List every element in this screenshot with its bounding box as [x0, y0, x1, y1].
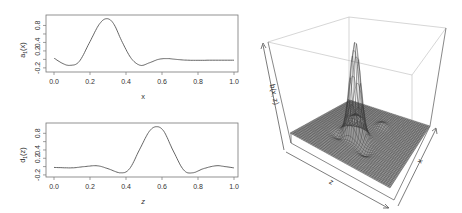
x-axis: 0.00.20.40.60.81.0	[49, 177, 239, 190]
x-direction-label: x	[415, 157, 425, 165]
x-axis-label: z	[140, 197, 145, 206]
z-direction-label: z	[327, 177, 335, 187]
svg-text:0.8: 0.8	[34, 21, 41, 31]
panel-surface: b(x, z) z x	[261, 17, 446, 208]
svg-text:0.8: 0.8	[34, 128, 41, 138]
plot-frame	[46, 123, 238, 177]
svg-text:0.0: 0.0	[49, 78, 59, 85]
y-axis: -0.20.20.40.8	[34, 128, 46, 181]
svg-text:1.0: 1.0	[229, 78, 239, 85]
svg-text:0.6: 0.6	[157, 78, 167, 85]
svg-text:0.6: 0.6	[157, 183, 167, 190]
figure: 0.00.20.40.60.81.0 -0.20.20.40.8 x a1(x)…	[0, 0, 462, 213]
svg-text:-0.2: -0.2	[34, 62, 41, 74]
svg-text:0.2: 0.2	[85, 183, 95, 190]
panel-a1: 0.00.20.40.60.81.0 -0.20.20.40.8 x a1(x)	[18, 15, 239, 101]
curve-d1	[54, 127, 234, 173]
svg-text:0.4: 0.4	[121, 78, 131, 85]
svg-text:0.8: 0.8	[193, 183, 203, 190]
y-axis: -0.20.20.40.8	[34, 21, 46, 74]
svg-text:0.2: 0.2	[85, 78, 95, 85]
svg-text:0.8: 0.8	[193, 78, 203, 85]
surface-wireframe	[290, 43, 430, 189]
panel-d1: 0.00.20.40.60.81.0 -0.20.20.40.8 z d1(z)	[18, 123, 239, 206]
z-axis-label: b(x, z)	[268, 83, 281, 106]
svg-text:-0.2: -0.2	[34, 169, 41, 181]
svg-text:1.0: 1.0	[229, 183, 239, 190]
plot-frame	[46, 15, 238, 72]
svg-text:0.0: 0.0	[49, 183, 59, 190]
svg-text:0.4: 0.4	[34, 145, 41, 155]
svg-text:0.4: 0.4	[121, 183, 131, 190]
y-axis-label: a1(x)	[18, 42, 28, 58]
svg-text:0.4: 0.4	[34, 37, 41, 47]
x-axis: 0.00.20.40.60.81.0	[49, 72, 239, 85]
y-axis-label: d1(z)	[18, 147, 28, 163]
curve-a1	[54, 19, 234, 66]
x-axis-label: x	[141, 92, 145, 101]
